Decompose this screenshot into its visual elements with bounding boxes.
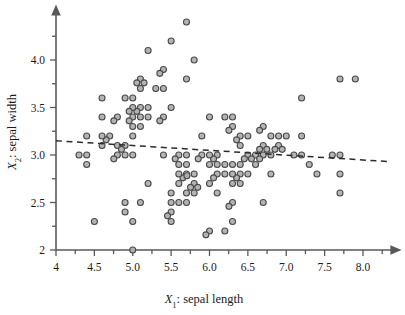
data-point xyxy=(276,133,282,139)
data-point xyxy=(337,76,343,82)
y-tick-label: 2 xyxy=(39,244,45,256)
x-tick-label: 4.5 xyxy=(87,261,102,273)
data-points xyxy=(76,19,358,253)
data-point xyxy=(111,156,117,162)
y-tick-label: 3.5 xyxy=(31,102,46,114)
data-point xyxy=(230,219,236,225)
data-point xyxy=(76,152,82,158)
data-point xyxy=(157,118,163,124)
data-point xyxy=(191,171,197,177)
data-point xyxy=(337,190,343,196)
y-tick-label: 4.0 xyxy=(31,54,46,66)
data-point xyxy=(168,219,174,225)
data-point xyxy=(122,152,128,158)
data-point xyxy=(306,162,312,168)
data-point xyxy=(230,181,236,187)
x-tick-label: 5.0 xyxy=(126,261,141,273)
data-point xyxy=(183,76,189,82)
data-point xyxy=(188,184,194,190)
data-point xyxy=(160,152,166,158)
scatter-plot-figure: 44.55.05.56.06.57.07.58.0 22.53.03.54.0 … xyxy=(0,0,405,315)
data-point xyxy=(248,156,254,162)
x-tick-label: 8.0 xyxy=(356,261,371,273)
data-point xyxy=(207,181,213,187)
data-point xyxy=(130,247,136,253)
data-point xyxy=(137,114,143,120)
data-point xyxy=(207,152,213,158)
data-point xyxy=(137,200,143,206)
data-point xyxy=(214,162,220,168)
data-point xyxy=(237,143,243,149)
data-point xyxy=(191,190,197,196)
data-point xyxy=(226,203,232,209)
data-point xyxy=(130,133,136,139)
data-point xyxy=(184,173,190,179)
data-point xyxy=(126,108,132,114)
y-tick-label: 3.0 xyxy=(31,149,46,161)
data-point xyxy=(241,156,247,162)
y-tick-label: 2.5 xyxy=(31,197,46,209)
data-point xyxy=(230,162,236,168)
data-point xyxy=(207,162,213,168)
data-point xyxy=(145,114,151,120)
data-point xyxy=(299,133,305,139)
data-point xyxy=(141,80,147,86)
data-point xyxy=(130,124,136,130)
data-point xyxy=(99,114,105,120)
data-point xyxy=(268,171,274,177)
data-point xyxy=(183,152,189,158)
data-point xyxy=(272,146,278,152)
data-point xyxy=(191,57,197,63)
data-point xyxy=(329,152,335,158)
data-point xyxy=(176,181,182,187)
data-point xyxy=(91,219,97,225)
data-point xyxy=(130,219,136,225)
data-point xyxy=(153,86,159,92)
data-point xyxy=(130,95,136,101)
data-point xyxy=(157,70,163,76)
data-point xyxy=(222,162,228,168)
data-point xyxy=(245,133,251,139)
data-point xyxy=(237,162,243,168)
x-tick-label: 7.0 xyxy=(279,261,294,273)
data-point xyxy=(84,133,90,139)
data-point xyxy=(84,152,90,158)
data-point xyxy=(130,152,136,158)
data-point xyxy=(234,137,240,143)
data-point xyxy=(203,232,209,238)
data-point xyxy=(257,146,263,152)
data-point xyxy=(230,171,236,177)
data-point xyxy=(134,80,140,86)
data-point xyxy=(84,162,90,168)
data-point xyxy=(137,86,143,92)
data-point xyxy=(176,162,182,168)
x-axis-tick-labels: 44.55.05.56.06.57.07.58.0 xyxy=(53,261,370,273)
data-point xyxy=(253,162,259,168)
data-point xyxy=(245,171,251,177)
data-point xyxy=(314,171,320,177)
y-axis-title: X2: sepal width xyxy=(5,93,23,171)
data-point xyxy=(264,146,270,152)
data-point xyxy=(230,114,236,120)
data-point xyxy=(122,200,128,206)
data-point xyxy=(299,95,305,101)
data-point xyxy=(183,190,189,196)
data-point xyxy=(99,95,105,101)
data-point xyxy=(160,86,166,92)
data-point xyxy=(168,200,174,206)
data-point xyxy=(137,124,143,130)
regression-fit-line xyxy=(56,141,390,162)
x-axis-title: X1: sepal length xyxy=(164,292,244,310)
data-point xyxy=(299,152,305,158)
data-point xyxy=(268,152,274,158)
data-point xyxy=(168,105,174,111)
data-point xyxy=(337,152,343,158)
x-tick-label: 7.5 xyxy=(317,261,332,273)
data-point xyxy=(199,133,205,139)
data-point xyxy=(176,200,182,206)
data-point xyxy=(145,105,151,111)
data-point xyxy=(222,228,228,234)
data-point xyxy=(214,190,220,196)
data-point xyxy=(260,200,266,206)
data-point xyxy=(337,171,343,177)
